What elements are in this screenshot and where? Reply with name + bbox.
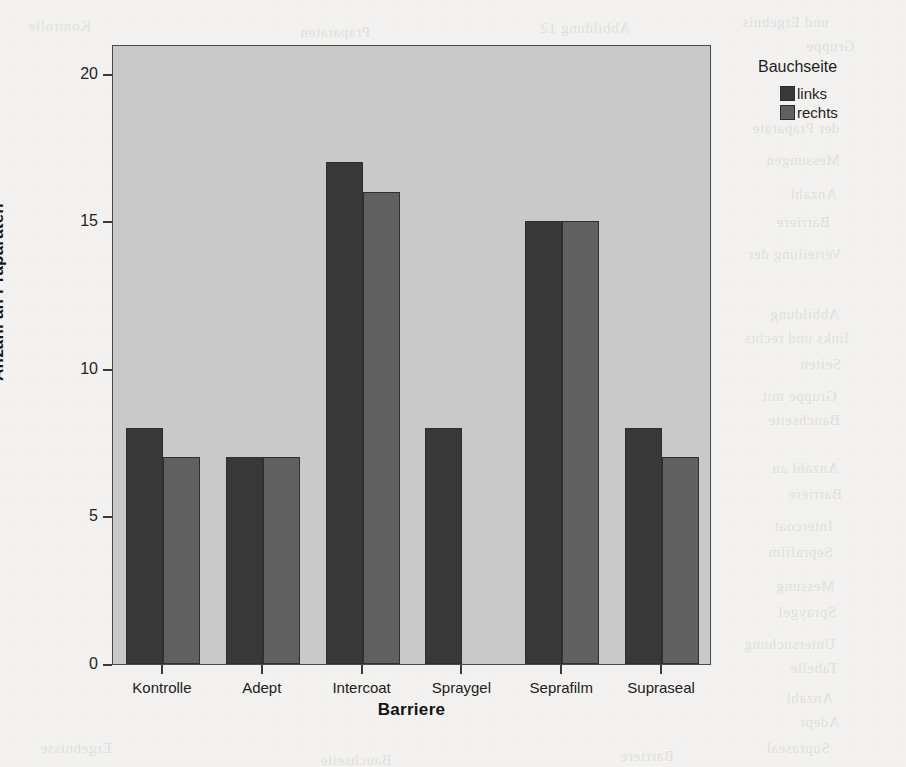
bar-kontrolle-rechts bbox=[163, 457, 200, 664]
x-tick-mark bbox=[560, 665, 562, 674]
x-tick-mark bbox=[460, 665, 462, 674]
bar-adept-links bbox=[226, 457, 263, 664]
bar-kontrolle-links bbox=[126, 428, 163, 664]
y-tick-label: 15 bbox=[80, 211, 98, 231]
legend-item-links: links bbox=[780, 85, 898, 102]
y-tick-label: 5 bbox=[89, 506, 98, 526]
legend-title: Bauchseite bbox=[758, 58, 898, 76]
bar-supraseal-links bbox=[625, 428, 662, 664]
y-tick-label: 20 bbox=[80, 64, 98, 84]
x-tick-label: Supraseal bbox=[586, 679, 736, 696]
bar-spraygel-links bbox=[425, 428, 462, 664]
bar-intercoat-links bbox=[326, 162, 363, 664]
legend-item-rechts: rechts bbox=[780, 104, 898, 121]
x-tick-mark bbox=[161, 665, 163, 674]
legend: Bauchseite linksrechts bbox=[758, 58, 898, 123]
y-tick-mark bbox=[103, 516, 112, 518]
y-tick-mark bbox=[103, 369, 112, 371]
y-axis-title: Anzahl an Präparaten bbox=[0, 82, 8, 502]
y-tick-label: 10 bbox=[80, 359, 98, 379]
legend-rows: linksrechts bbox=[758, 85, 898, 121]
legend-swatch-links bbox=[780, 86, 795, 101]
bar-intercoat-rechts bbox=[363, 192, 400, 664]
bar-chart: 05101520 Anzahl an Präparaten KontrolleA… bbox=[0, 0, 906, 767]
bar-seprafilm-links bbox=[525, 221, 562, 664]
x-tick-mark bbox=[660, 665, 662, 674]
y-tick-mark bbox=[103, 664, 112, 666]
y-tick-label: 0 bbox=[89, 654, 98, 674]
x-tick-mark bbox=[361, 665, 363, 674]
legend-label-rechts: rechts bbox=[797, 104, 838, 121]
legend-label-links: links bbox=[797, 85, 827, 102]
y-tick-mark bbox=[103, 221, 112, 223]
x-tick-mark bbox=[261, 665, 263, 674]
bar-seprafilm-rechts bbox=[562, 221, 599, 664]
legend-swatch-rechts bbox=[780, 105, 795, 120]
x-axis-title: Barriere bbox=[112, 700, 711, 720]
bars-layer bbox=[113, 46, 710, 664]
bar-adept-rechts bbox=[263, 457, 300, 664]
y-tick-mark bbox=[103, 74, 112, 76]
plot-area bbox=[112, 45, 711, 665]
bar-supraseal-rechts bbox=[662, 457, 699, 664]
